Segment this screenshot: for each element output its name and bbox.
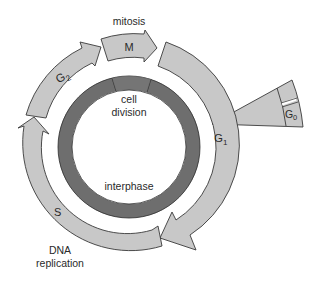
cell-division-label-line2: division (111, 106, 146, 118)
diagram-canvas: mitosis M G 2 G 1 G 0 S cell division in… (0, 0, 325, 285)
cell-cycle-diagram: mitosis M G 2 G 1 G 0 S cell division in… (0, 0, 325, 285)
s-phase-label: S (54, 206, 61, 218)
svg-text:G: G (285, 108, 293, 120)
cell-division-label-line1: cell (121, 93, 137, 105)
dna-replication-label-line2: replication (36, 257, 84, 269)
svg-text:0: 0 (293, 113, 297, 122)
svg-text:G: G (214, 132, 223, 144)
svg-text:1: 1 (223, 138, 228, 147)
m-phase-label: M (124, 41, 133, 53)
interphase-label: interphase (104, 180, 153, 192)
mitosis-label: mitosis (113, 15, 146, 27)
dna-replication-label-line1: DNA (49, 244, 71, 256)
